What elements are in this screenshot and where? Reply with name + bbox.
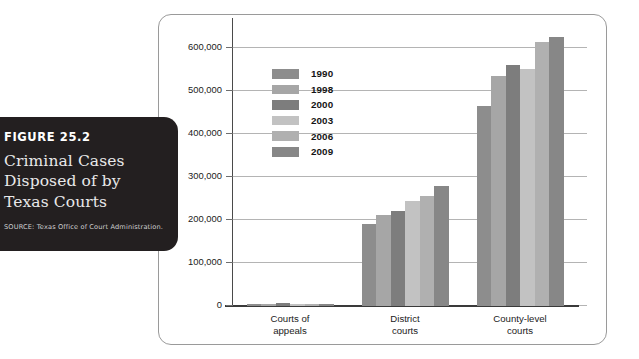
legend-label: 2000 [311,99,333,110]
bar[interactable] [261,304,276,306]
bar[interactable] [477,106,492,306]
legend-swatch [272,85,299,95]
y-tick-mark-right [579,262,587,263]
bar[interactable] [290,304,305,306]
figure-title: Criminal Cases Disposed of by Texas Cour… [4,151,166,212]
bar[interactable] [420,196,435,306]
bar[interactable] [319,304,334,306]
legend-label: 2006 [311,131,333,142]
bar[interactable] [391,211,406,306]
bar[interactable] [549,37,564,306]
legend-swatch [272,100,299,110]
y-tick-mark-right [579,305,587,306]
y-tick-mark-right [579,176,587,177]
bar[interactable] [276,303,291,306]
figure-source-note: SOURCE: Texas Office of Court Administra… [4,224,166,232]
legend-label: 2003 [311,115,333,126]
legend-item[interactable]: 2009 [272,144,333,160]
bar[interactable] [247,304,262,306]
plot-wrapper: 0100,000200,000300,000400,000500,000600,… [159,15,608,346]
y-tick-label: 0 [217,299,222,310]
legend-swatch [272,147,299,157]
legend-swatch [272,69,299,79]
legend-item[interactable]: 2003 [272,113,333,129]
legend-label: 2009 [311,146,333,157]
legend-label: 1998 [311,84,333,95]
y-tick-mark [226,219,233,220]
y-tick-mark-right [579,47,587,48]
category-label: District courts [345,313,465,338]
legend-label: 1990 [311,68,333,79]
y-tick-mark [226,262,233,263]
y-tick-mark [226,305,233,306]
chart-legend: 199019982000200320062009 [272,66,333,160]
legend-swatch [272,131,299,141]
legend-item[interactable]: 1990 [272,66,333,82]
y-tick-label: 300,000 [188,170,222,181]
bar[interactable] [434,186,449,306]
legend-item[interactable]: 2000 [272,97,333,113]
bar[interactable] [491,76,506,306]
y-tick-label: 200,000 [188,213,222,224]
bar[interactable] [520,69,535,306]
bar[interactable] [506,65,521,306]
y-tick-mark [226,47,233,48]
legend-item[interactable]: 2006 [272,128,333,144]
bar[interactable] [535,42,550,306]
y-tick-mark [226,90,233,91]
figure-caption-box: FIGURE 25.2 Criminal Cases Disposed of b… [0,117,178,251]
bar-group [477,27,564,306]
y-tick-mark-right [579,90,587,91]
bar[interactable] [362,224,377,306]
y-tick-label: 500,000 [188,84,222,95]
legend-swatch [272,116,299,126]
bar-group [362,27,449,306]
y-tick-label: 600,000 [188,41,222,52]
category-label: County-level courts [460,313,580,338]
y-tick-mark [226,133,233,134]
category-label: Courts of appeals [230,313,350,338]
y-tick-mark [226,176,233,177]
y-tick-mark-right [579,133,587,134]
y-tick-label: 400,000 [188,127,222,138]
y-tick-mark-right [579,219,587,220]
legend-item[interactable]: 1998 [272,82,333,98]
bar[interactable] [405,201,420,306]
bar[interactable] [305,304,320,306]
figure-number: FIGURE 25.2 [4,131,166,144]
chart-panel: 0100,000200,000300,000400,000500,000600,… [158,14,607,345]
bar[interactable] [376,215,391,306]
y-tick-label: 100,000 [188,256,222,267]
